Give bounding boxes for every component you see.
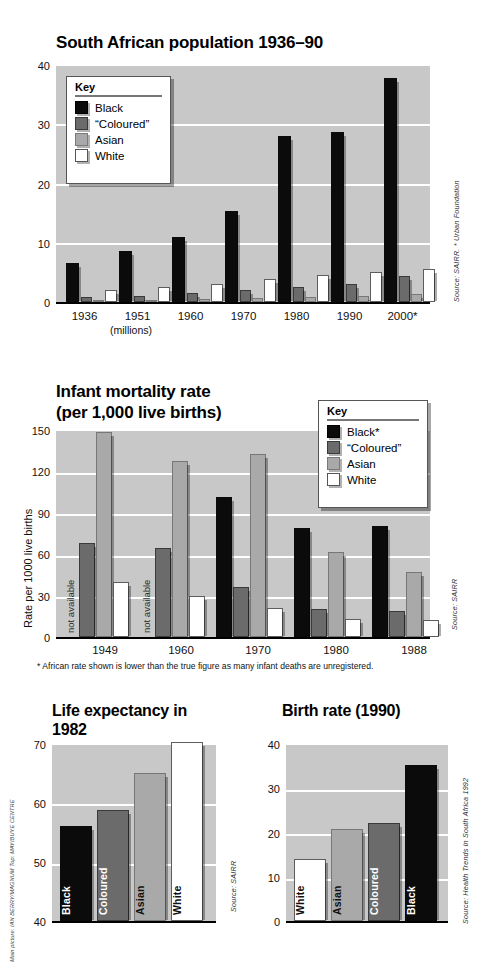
key-label: White — [347, 474, 376, 486]
x-tick-2000: 2000* — [376, 310, 429, 322]
population-source: Source: SAIRR. * Urban Foundation — [452, 180, 461, 302]
bar-white — [113, 582, 129, 638]
chart-population: South African population 1936–90 40 30 2… — [0, 0, 485, 340]
key-row-coloured: “Coloured” — [319, 440, 427, 456]
x-tick-1970: 1970 — [228, 644, 288, 656]
bar-asian — [172, 461, 188, 637]
x-tick-1990: 1990 — [323, 310, 376, 322]
key-rule — [75, 95, 162, 97]
key-row-asian: Asian — [67, 132, 170, 148]
bar-black — [384, 78, 397, 302]
bar-coloured — [187, 293, 198, 302]
y-tick-70: 70 — [24, 740, 46, 751]
bar-coloured — [240, 290, 251, 302]
bar-black — [225, 211, 238, 302]
swatch-black-icon — [75, 101, 88, 114]
bar-white — [317, 275, 329, 302]
y-tick-0: 0 — [26, 633, 50, 644]
swatch-black-icon — [327, 425, 340, 438]
key-label: “Coloured” — [347, 442, 401, 454]
life-expectancy-source: Source: SAIRR — [229, 861, 238, 912]
x-tick-1960: 1960 — [164, 310, 217, 322]
key-label: “Coloured” — [95, 118, 149, 130]
key-label: Asian — [95, 134, 124, 146]
key-row-white: White — [67, 148, 170, 164]
key-heading: Key — [67, 77, 170, 95]
bar-asian — [328, 552, 344, 637]
life-expectancy-plot-area: Black Coloured Asian White — [52, 745, 216, 923]
bar-white: White — [171, 742, 203, 921]
x-tick-1988: 1988 — [384, 644, 444, 656]
bar-label: Asian — [331, 885, 343, 915]
bar-label: Asian — [134, 885, 146, 915]
life-expectancy-title-line1: Life expectancy in — [52, 702, 187, 720]
bar-asian — [146, 300, 157, 302]
y-tick-150: 150 — [26, 426, 50, 437]
bar-white — [345, 619, 361, 637]
bar-white — [423, 269, 435, 302]
gridline — [56, 184, 430, 186]
bar-coloured — [346, 284, 357, 303]
y-tick-0: 0 — [258, 917, 280, 928]
bar-coloured — [399, 276, 410, 302]
birth-rate-plot-area: White Asian Coloured Black — [286, 745, 448, 923]
bar-coloured — [311, 609, 327, 637]
bar-label: Black — [405, 886, 417, 915]
key-row-white: White — [319, 472, 427, 488]
chart-birth-rate: Birth rate (1990) 40 30 20 10 0 White As… — [240, 680, 485, 971]
bar-coloured — [79, 543, 95, 637]
key-row-black: Black — [67, 100, 170, 116]
bar-black — [66, 263, 79, 302]
bar-label: White — [171, 885, 183, 915]
not-available-label: not available — [141, 580, 152, 633]
bar-black — [294, 528, 310, 638]
bar-white — [189, 596, 205, 637]
x-tick-1980: 1980 — [306, 644, 366, 656]
mortality-source: Source: SAIRR — [450, 579, 459, 630]
y-tick-30: 30 — [26, 592, 50, 603]
gridline — [56, 243, 430, 245]
mortality-y-axis-label: Rate per 1000 live births — [22, 509, 34, 628]
bar-asian — [93, 300, 104, 302]
x-tick-1960: 1960 — [151, 644, 211, 656]
y-tick-30: 30 — [258, 784, 280, 795]
bar-coloured — [81, 297, 92, 302]
not-available-label: not available — [65, 580, 76, 633]
bar-asian: Asian — [134, 773, 166, 921]
key-row-coloured: “Coloured” — [67, 116, 170, 132]
bar-label: White — [294, 885, 306, 915]
bar-coloured: Coloured — [97, 810, 129, 921]
bar-black — [331, 132, 344, 302]
bar-asian — [358, 296, 369, 302]
bar-white — [370, 272, 382, 302]
mortality-key-legend: Key Black* “Coloured” Asian White — [318, 400, 428, 508]
y-tick-20: 20 — [258, 829, 280, 840]
bar-coloured — [233, 587, 249, 637]
bar-asian — [199, 299, 210, 302]
bar-white: White — [294, 859, 326, 921]
key-rule — [327, 419, 419, 421]
y-tick-60: 60 — [26, 550, 50, 561]
chart-infant-mortality: Infant mortality rate (per 1,000 live bi… — [0, 340, 485, 680]
swatch-asian-icon — [327, 457, 340, 470]
bar-coloured — [155, 548, 171, 637]
y-tick-60: 60 — [24, 799, 46, 810]
x-tick-1951: 1951 — [111, 310, 164, 322]
bar-asian — [406, 572, 422, 637]
y-tick-10: 10 — [28, 239, 50, 250]
y-tick-10: 10 — [258, 873, 280, 884]
key-label: Asian — [347, 458, 376, 470]
y-tick-40: 40 — [28, 61, 50, 72]
bar-coloured — [389, 611, 405, 637]
bar-label: Black — [60, 886, 72, 915]
bar-black — [172, 237, 185, 302]
bar-asian — [305, 297, 316, 302]
chart-life-expectancy: Life expectancy in 1982 70 60 50 40 Blac… — [0, 680, 240, 971]
population-axis-unit: (millions) — [110, 324, 152, 336]
key-heading: Key — [319, 401, 427, 419]
key-row-black: Black* — [319, 424, 427, 440]
bar-asian: Asian — [331, 829, 363, 921]
bar-label: Coloured — [97, 867, 109, 915]
bar-white — [105, 290, 117, 302]
bar-white — [264, 279, 276, 302]
